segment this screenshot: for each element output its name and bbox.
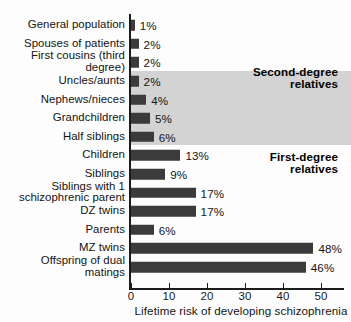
x-axis-tick: [283, 283, 284, 289]
bar-category-label: Grandchildren: [53, 113, 125, 125]
bar-row: Grandchildren5%: [0, 109, 351, 128]
bar-category-label: DZ twins: [80, 206, 125, 218]
bar-category-label: Half siblings: [63, 131, 125, 143]
bar-category-label: Offspring of dual matings: [0, 256, 125, 279]
bar: [131, 94, 146, 105]
bar: [131, 150, 180, 161]
bar: [131, 187, 196, 198]
bar: [131, 39, 139, 50]
bar-row: Nephews/nieces4%: [0, 90, 351, 109]
bar-category-label: Siblings with 1 schizophrenic parent: [19, 181, 125, 204]
bar: [131, 57, 139, 68]
x-axis-line: [129, 288, 344, 290]
bar-value-label: 2%: [144, 56, 161, 69]
x-axis-tick: [207, 283, 208, 289]
bar-row: General population1%: [0, 16, 351, 35]
bar-value-label: 13%: [185, 149, 209, 162]
bar-value-label: 2%: [144, 75, 161, 88]
bar-value-label: 4%: [151, 93, 168, 106]
bar: [131, 262, 306, 273]
bar-value-label: 17%: [201, 205, 225, 218]
bar-value-label: 2%: [144, 37, 161, 50]
x-axis-tick: [321, 283, 322, 289]
x-axis-tick-label: 40: [276, 290, 289, 302]
bar-value-label: 46%: [311, 261, 335, 274]
bar-category-label: Siblings: [85, 168, 125, 180]
bar: [131, 169, 165, 180]
x-axis-tick-label: 30: [238, 290, 251, 302]
annotation-second-degree: Second-degree relatives: [253, 66, 338, 91]
bar-category-label: MZ twins: [79, 243, 125, 255]
bar: [131, 206, 196, 217]
bar-category-label: Nephews/nieces: [41, 94, 125, 106]
bar-category-label: General population: [28, 20, 125, 32]
bar-value-label: 17%: [201, 186, 225, 199]
bar-category-label: Uncles/aunts: [59, 75, 125, 87]
bar-value-label: 48%: [318, 242, 342, 255]
x-axis-tick: [131, 283, 132, 289]
bar-row: DZ twins17%: [0, 202, 351, 221]
bar-value-label: 6%: [159, 130, 176, 143]
bar-value-label: 6%: [159, 223, 176, 236]
bar-row: Half siblings6%: [0, 128, 351, 147]
bar-row: Offspring of dual matings46%: [0, 258, 351, 277]
x-axis-tick-label: 10: [162, 290, 175, 302]
bar-row: Parents6%: [0, 221, 351, 240]
bar-value-label: 5%: [155, 112, 172, 125]
bar-value-label: 1%: [140, 19, 157, 32]
bar-category-label: First cousins (third degree): [0, 51, 125, 74]
bar: [131, 225, 154, 236]
bar: [131, 132, 154, 143]
bar: [131, 243, 313, 254]
bar: [131, 20, 135, 31]
x-axis-tick-label: 50: [314, 290, 327, 302]
x-axis-tick-label: 0: [128, 290, 135, 302]
bar-category-label: Spouses of patients: [24, 38, 125, 50]
annotation-first-degree: First-degree relatives: [270, 151, 338, 176]
bar: [131, 113, 150, 124]
bar-row: Siblings with 1 schizophrenic parent17%: [0, 183, 351, 202]
bar: [131, 76, 139, 87]
bar-value-label: 9%: [170, 168, 187, 181]
bar-category-label: Parents: [85, 224, 125, 236]
x-axis-tick-label: 20: [200, 290, 213, 302]
x-axis-tick: [169, 283, 170, 289]
bar-category-label: Children: [82, 150, 125, 162]
x-axis-tick: [245, 283, 246, 289]
schizophrenia-risk-bar-chart: General population1%Spouses of patients2…: [0, 0, 351, 322]
x-axis-title: Lifetime risk of developing schizophreni…: [131, 304, 351, 317]
